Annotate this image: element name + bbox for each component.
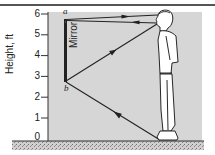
y-tick-5: 5 xyxy=(28,28,40,39)
mirror-label: Mirror xyxy=(68,22,79,48)
y-tick-6: 6 xyxy=(28,8,40,19)
ground-band xyxy=(12,141,204,150)
point-a-label: a xyxy=(63,6,68,16)
y-tick-0: 0 xyxy=(28,131,40,142)
y-tick-2: 2 xyxy=(28,91,40,102)
y-axis-label: Height, ft xyxy=(4,34,15,74)
y-tick-3: 3 xyxy=(28,70,40,81)
y-tick-4: 4 xyxy=(28,49,40,60)
point-b-label: b xyxy=(64,83,69,93)
y-axis xyxy=(41,12,48,141)
y-tick-1: 1 xyxy=(28,112,40,123)
